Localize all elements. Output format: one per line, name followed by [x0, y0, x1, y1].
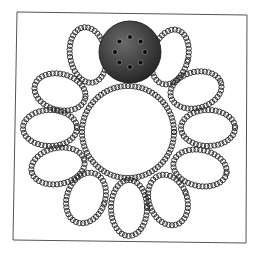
disc-hole — [143, 50, 147, 54]
disc-hole — [139, 61, 143, 65]
disc-hole — [128, 65, 132, 69]
coil-diagram — [0, 0, 260, 257]
disc-hole — [117, 61, 121, 65]
disc-hole — [117, 39, 121, 43]
diagram-canvas — [0, 0, 260, 257]
disc-hole — [128, 35, 132, 39]
dark-disc — [99, 21, 161, 83]
disc-hole — [139, 39, 143, 43]
disc-hole — [113, 50, 117, 54]
